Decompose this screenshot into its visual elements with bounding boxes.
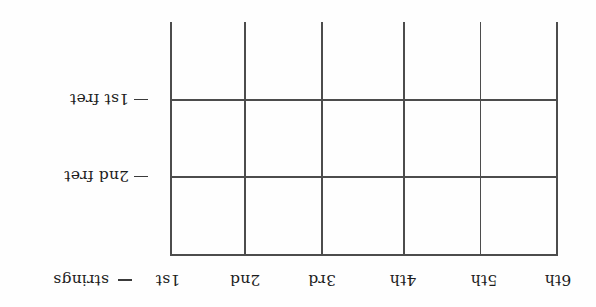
string-label-2nd: 2nd (215, 271, 275, 289)
fret-line-2nd (170, 176, 558, 178)
string-line-3rd (403, 22, 405, 256)
string-line-6th (170, 22, 172, 256)
strings-caption-tick (118, 280, 132, 282)
string-label-3rd: 3rd (292, 271, 352, 289)
nut-line (170, 254, 558, 256)
fret-label-1st: 1st fret (70, 90, 129, 108)
fret-tick-1st (134, 99, 148, 101)
string-label-5th: 5th (454, 271, 514, 289)
fret-tick-2nd (134, 176, 148, 178)
string-label-6th: 6th (528, 271, 588, 289)
rotated-figure-group: 2nd fret 1st fret 6th 5th 4th 3rd 2nd 1s… (0, 0, 596, 307)
fret-line-1st (170, 99, 558, 101)
fret-label-2nd: 2nd fret (64, 167, 129, 185)
string-line-2nd (480, 22, 482, 256)
string-line-4th (321, 22, 323, 256)
figure-canvas: 2nd fret 1st fret 6th 5th 4th 3rd 2nd 1s… (0, 0, 596, 307)
string-line-1st (556, 22, 558, 256)
string-label-4th: 4th (373, 271, 433, 289)
string-label-1st: 1st (138, 271, 198, 289)
string-line-5th (244, 22, 246, 256)
strings-axis-caption: strings (53, 271, 109, 289)
fretboard-grid (170, 22, 558, 256)
